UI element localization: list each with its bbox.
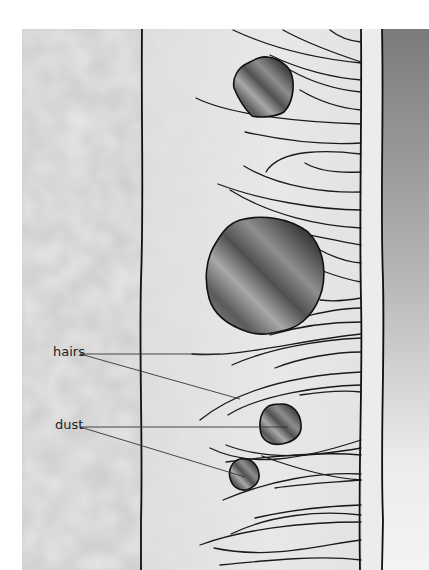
dust-particle-large-middle [206,217,324,334]
tissue-texture-panel [22,29,142,570]
dust-particle-small-bottom [229,459,259,490]
diagram-canvas [0,0,429,570]
label-hairs: hairs [53,344,85,359]
dust-particle-small-lower [260,404,301,444]
airway-wall [362,29,382,570]
outer-tissue-panel [382,29,429,570]
respiratory-hair-diagram: hairs dust [0,0,429,570]
label-dust: dust [55,417,83,432]
